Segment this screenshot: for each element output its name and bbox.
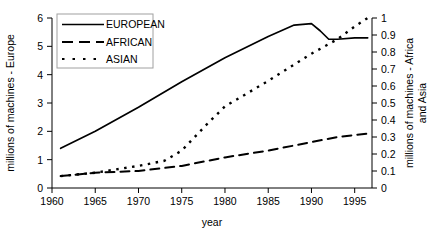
left-tick-label: 1 — [37, 154, 43, 166]
x-tick-label: 1985 — [257, 195, 281, 207]
left-tick-label: 3 — [37, 97, 43, 109]
legend-label-asian: ASIAN — [106, 53, 138, 65]
legend-label-european: EUROPEAN — [106, 18, 165, 30]
right-axis-tick-labels: 1 0.9 0.8 0.7 0.6 0.5 0.4 0.3 0.2 0.1 0 — [381, 12, 396, 194]
y-left-axis-title: millions of machines - Europe — [4, 34, 16, 172]
right-axis-ticks — [372, 18, 377, 188]
left-tick-label: 2 — [37, 125, 43, 137]
legend-label-african: AFRICAN — [106, 36, 152, 48]
x-tick-label: 1995 — [343, 195, 367, 207]
right-tick-label: 1 — [381, 12, 387, 24]
x-tick-label: 1980 — [213, 195, 237, 207]
x-axis-title: year — [202, 216, 223, 228]
legend: EUROPEAN AFRICAN ASIAN — [57, 14, 165, 68]
x-axis-tick-labels: 1960 1965 1970 1975 1980 1985 1990 1995 — [40, 195, 366, 207]
right-tick-label: 0.8 — [381, 46, 396, 58]
x-axis-ticks — [52, 188, 355, 193]
left-tick-label: 6 — [37, 12, 43, 24]
right-tick-label: 0.9 — [381, 29, 396, 41]
right-tick-label: 0.3 — [381, 131, 396, 143]
left-axis-ticks — [47, 18, 52, 188]
y-right-axis-title-line1: millions of machines - Africa — [403, 38, 415, 168]
series-line-african — [61, 134, 368, 177]
x-tick-label: 1990 — [300, 195, 324, 207]
right-tick-label: 0.2 — [381, 148, 396, 160]
left-axis-tick-labels: 6 5 4 3 2 1 0 — [37, 12, 43, 194]
x-tick-label: 1975 — [170, 195, 194, 207]
x-tick-label: 1970 — [127, 195, 151, 207]
chart-container: 6 5 4 3 2 1 0 1 0.9 0.8 0.7 0.6 — [0, 0, 438, 237]
right-tick-label: 0.4 — [381, 114, 396, 126]
right-tick-label: 0.6 — [381, 80, 396, 92]
x-tick-label: 1960 — [40, 195, 64, 207]
x-tick-label: 1965 — [84, 195, 108, 207]
left-tick-label: 5 — [37, 40, 43, 52]
right-tick-label: 0.7 — [381, 63, 396, 75]
right-tick-label: 0.1 — [381, 165, 396, 177]
right-tick-label: 0 — [381, 182, 387, 194]
y-right-axis-title-line2: and Asia — [416, 83, 428, 123]
chart-svg: 6 5 4 3 2 1 0 1 0.9 0.8 0.7 0.6 — [0, 0, 438, 237]
left-tick-label: 4 — [37, 69, 43, 81]
left-tick-label: 0 — [37, 182, 43, 194]
right-tick-label: 0.5 — [381, 97, 396, 109]
